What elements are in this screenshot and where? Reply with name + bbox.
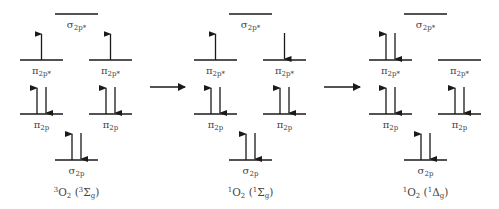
orbital-label-sigma: σ2p xyxy=(418,166,434,178)
orbital-label-pi-star: π2p* xyxy=(381,66,400,78)
orbital-symbol: σ xyxy=(243,165,250,176)
orbital-subscript: 2p xyxy=(109,124,118,132)
caption-part: ( xyxy=(245,186,252,198)
orbital-label-pi-star: π2p* xyxy=(450,66,469,78)
orbital-symbol: σ xyxy=(69,165,76,176)
orbital-subscript: 2p xyxy=(214,124,223,132)
orbital-subscript: 2p* xyxy=(457,70,469,78)
state-caption-triplet: 3O2 (3Σg) xyxy=(54,187,99,200)
caption-part: Σ xyxy=(257,186,264,198)
orbital-label-pi-star: π2p* xyxy=(275,66,294,78)
orbital-subscript: 2p* xyxy=(282,70,294,78)
caption-part: ) xyxy=(269,186,273,198)
orbital-subscript: 2p* xyxy=(108,70,120,78)
orbital-subscript: 2p xyxy=(75,170,84,178)
orbital-label-sigma: σ2p xyxy=(243,166,259,178)
orbital-label-sigma-star: σ2p* xyxy=(67,20,86,32)
orbital-subscript: 2p* xyxy=(423,24,435,32)
orbital-label-pi: π2p xyxy=(277,120,293,132)
orbital-label-pi: π2p xyxy=(452,120,468,132)
orbital-label-sigma-star: σ2p* xyxy=(241,20,260,32)
orbital-label-pi: π2p xyxy=(208,120,224,132)
orbital-symbol: σ xyxy=(241,19,248,30)
orbital-label-pi-star: π2p* xyxy=(206,66,225,78)
orbital-label-pi-star: π2p* xyxy=(32,66,51,78)
caption-part: Δ xyxy=(432,186,440,198)
orbital-label-pi: π2p xyxy=(103,120,119,132)
orbital-subscript: 2p xyxy=(424,170,433,178)
orbital-label-sigma-star: σ2p* xyxy=(416,20,435,32)
orbital-label-pi: π2p xyxy=(34,120,50,132)
orbital-subscript: 2p* xyxy=(213,70,225,78)
orbital-subscript: 2p* xyxy=(388,70,400,78)
orbital-label-pi-star: π2p* xyxy=(101,66,120,78)
orbital-label-sigma: σ2p xyxy=(69,166,85,178)
caption-part: Σ xyxy=(83,186,90,198)
orbital-subscript: 2p xyxy=(389,124,398,132)
orbital-subscript: 2p xyxy=(458,124,467,132)
caption-part: O xyxy=(58,186,67,198)
orbital-symbol: σ xyxy=(67,19,74,30)
caption-part: O xyxy=(232,186,241,198)
caption-part: ) xyxy=(444,186,448,198)
orbital-subscript: 2p xyxy=(249,170,258,178)
orbital-subscript: 2p xyxy=(40,124,49,132)
orbital-subscript: 2p* xyxy=(39,70,51,78)
orbital-symbol: σ xyxy=(416,19,423,30)
state-caption-singlet-delta: 1O2 (1Δg) xyxy=(403,187,449,200)
caption-part: ) xyxy=(95,186,99,198)
state-caption-singlet-sigma: 1O2 (1Σg) xyxy=(228,187,273,200)
orbital-subscript: 2p* xyxy=(248,24,260,32)
caption-part: ( xyxy=(71,186,78,198)
orbital-symbol: σ xyxy=(418,165,425,176)
orbital-subscript: 2p* xyxy=(74,24,86,32)
caption-part: O xyxy=(407,186,416,198)
orbital-label-pi: π2p xyxy=(383,120,399,132)
orbital-subscript: 2p xyxy=(283,124,292,132)
caption-part: ( xyxy=(420,186,427,198)
